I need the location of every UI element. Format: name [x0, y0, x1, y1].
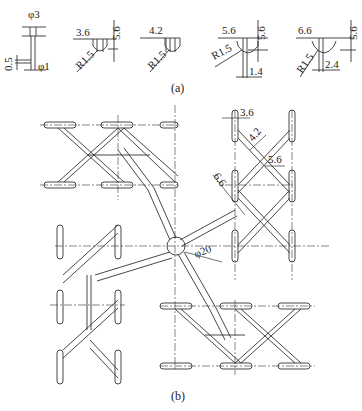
label-r1-5-p2: R1.5 — [73, 48, 97, 72]
label-5-6-p5: 5.6 — [347, 26, 359, 40]
channel-left — [95, 252, 172, 281]
label-5-6-p4-width: 5.6 — [222, 24, 236, 36]
label-6-6-p5: 6.6 — [298, 24, 312, 36]
caption-b: (b) — [171, 389, 185, 403]
label-5-6-p2: 5.6 — [110, 26, 122, 40]
label-4-2: 4.2 — [149, 24, 163, 36]
cluster-left — [57, 225, 121, 384]
label-5-6-p4-depth: 5.6 — [255, 26, 267, 40]
label-b-3-6: 3.6 — [240, 106, 254, 118]
technical-drawing: φ3 0.5 φ1 3.6 5.6 R1.5 4.2 R1.5 5.6 5.6 … — [0, 0, 362, 411]
label-0-5: 0.5 — [2, 57, 14, 71]
label-phi3: φ3 — [28, 8, 40, 20]
caption-a: (a) — [171, 81, 184, 95]
channel-bottom — [178, 252, 231, 340]
label-r1-5-p3: R1.5 — [145, 48, 169, 72]
label-2-4: 2.4 — [325, 58, 339, 70]
label-1-4: 1.4 — [249, 65, 263, 77]
cluster-top-right — [232, 110, 295, 262]
label-3-6: 3.6 — [76, 26, 90, 38]
label-r1-5-p4: R1.5 — [209, 41, 234, 62]
label-phi1: φ1 — [38, 60, 50, 72]
label-b-5-6: 5.6 — [268, 153, 282, 165]
label-phi20: φ20 — [192, 242, 213, 260]
label-r1-5-p5: R1.5 — [294, 51, 316, 76]
label-b-6-6: 6.6 — [211, 170, 229, 189]
channel-right — [180, 210, 237, 246]
